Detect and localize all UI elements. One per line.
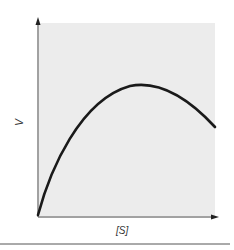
y-axis-arrow-icon — [36, 17, 41, 25]
chart-canvas — [0, 0, 234, 250]
y-axis-label: V — [14, 119, 25, 126]
x-axis-label: [S] — [116, 225, 128, 236]
plot-area — [39, 23, 215, 216]
